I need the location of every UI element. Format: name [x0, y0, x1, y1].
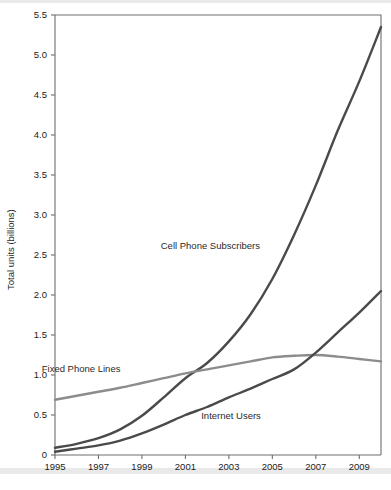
x-tick-label: 1999 — [131, 461, 152, 472]
y-tick-label: 4.5 — [34, 89, 47, 100]
y-tick-label: 3.0 — [34, 209, 47, 220]
y-tick-label: 5.5 — [34, 9, 47, 20]
y-tick-label: 1.5 — [34, 329, 47, 340]
y-tick-label: 0.5 — [34, 409, 47, 420]
series-label-internet-users: Internet Users — [201, 410, 261, 421]
series-label-fixed-phone-lines: Fixed Phone Lines — [42, 363, 121, 374]
y-axis-title: Total units (billions) — [5, 209, 16, 290]
y-tick-label: 2.5 — [34, 249, 47, 260]
y-tick-label: 0 — [42, 449, 47, 460]
x-tick-label: 2001 — [175, 461, 196, 472]
x-tick-label: 1995 — [44, 461, 65, 472]
chart-canvas: 00.51.01.52.02.53.03.54.04.55.05.5 19951… — [0, 0, 391, 490]
x-tick-label: 2009 — [349, 461, 370, 472]
y-tick-label: 2.0 — [34, 289, 47, 300]
x-tick-label: 2007 — [305, 461, 326, 472]
series-label-cell-phone-subscribers: Cell Phone Subscribers — [161, 240, 261, 251]
x-tick-label: 1997 — [88, 461, 109, 472]
x-tick-label: 2003 — [218, 461, 239, 472]
y-tick-label: 4.0 — [34, 129, 47, 140]
y-tick-label: 3.5 — [34, 169, 47, 180]
x-tick-label: 2005 — [262, 461, 283, 472]
line-chart: 00.51.01.52.02.53.03.54.04.55.05.5 19951… — [0, 0, 391, 490]
page-top-edge — [0, 0, 391, 3]
y-tick-label: 5.0 — [34, 49, 47, 60]
